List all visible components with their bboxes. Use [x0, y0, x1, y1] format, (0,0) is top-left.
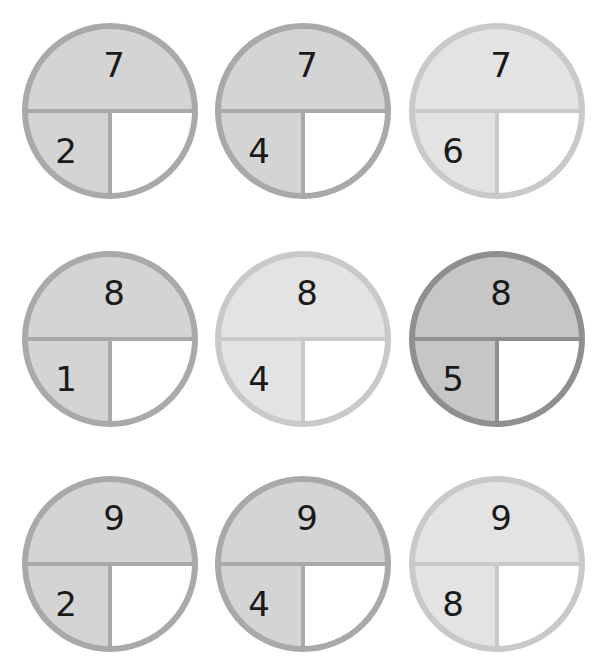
known-part-number: 4: [248, 362, 270, 396]
number-bond: 85: [407, 250, 587, 428]
number-bond: 92: [20, 475, 200, 653]
missing-part-answer-box[interactable]: [501, 115, 577, 191]
whole-number: 9: [490, 501, 512, 535]
known-part-number: 2: [55, 134, 77, 168]
number-bond: 72: [20, 22, 200, 200]
known-part-number: 8: [442, 587, 464, 621]
number-bond: 74: [213, 22, 393, 200]
whole-number: 9: [103, 501, 125, 535]
missing-part-answer-box[interactable]: [114, 568, 190, 644]
whole-number: 7: [103, 48, 125, 82]
missing-part-answer-box[interactable]: [307, 115, 383, 191]
missing-part-answer-box[interactable]: [501, 343, 577, 419]
known-part-number: 1: [55, 362, 77, 396]
known-part-number: 4: [248, 134, 270, 168]
whole-number: 8: [490, 276, 512, 310]
missing-part-answer-box[interactable]: [307, 343, 383, 419]
whole-number: 8: [296, 276, 318, 310]
number-bond: 98: [407, 475, 587, 653]
missing-part-answer-box[interactable]: [114, 343, 190, 419]
known-part-number: 4: [248, 587, 270, 621]
missing-part-answer-box[interactable]: [114, 115, 190, 191]
whole-number: 7: [296, 48, 318, 82]
number-bond: 84: [213, 250, 393, 428]
known-part-number: 5: [442, 362, 464, 396]
number-bond: 76: [407, 22, 587, 200]
whole-number: 8: [103, 276, 125, 310]
known-part-number: 6: [442, 134, 464, 168]
whole-number: 9: [296, 501, 318, 535]
cropped-header: [0, 0, 601, 6]
whole-number: 7: [490, 48, 512, 82]
number-bond: 81: [20, 250, 200, 428]
known-part-number: 2: [55, 587, 77, 621]
number-bond: 94: [213, 475, 393, 653]
missing-part-answer-box[interactable]: [501, 568, 577, 644]
missing-part-answer-box[interactable]: [307, 568, 383, 644]
